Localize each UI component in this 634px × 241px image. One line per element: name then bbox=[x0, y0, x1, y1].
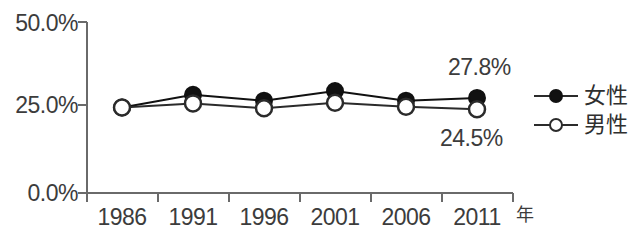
series-female bbox=[114, 83, 485, 115]
x-tick-label-2006: 2006 bbox=[381, 206, 430, 229]
series-line bbox=[122, 103, 477, 109]
series-layer bbox=[114, 83, 485, 117]
x-axis-unit-label: 年 bbox=[516, 206, 534, 224]
filled-circle-marker-icon bbox=[534, 86, 578, 106]
data-point-marker[interactable] bbox=[256, 100, 272, 116]
x-tick-label-2001: 2001 bbox=[310, 206, 359, 229]
open-circle-marker-icon bbox=[534, 115, 578, 135]
data-point-marker[interactable] bbox=[114, 100, 130, 116]
x-tick-label-1991: 1991 bbox=[168, 206, 217, 229]
data-label-female-2011: 27.8% bbox=[448, 56, 511, 79]
data-point-marker[interactable] bbox=[185, 95, 201, 111]
legend: 女性 男性 bbox=[534, 82, 628, 140]
data-label-male-2011: 24.5% bbox=[440, 127, 503, 150]
data-point-marker[interactable] bbox=[327, 95, 343, 111]
x-tick-label-1986: 1986 bbox=[97, 206, 146, 229]
legend-item-male[interactable]: 男性 bbox=[534, 111, 628, 138]
data-point-marker[interactable] bbox=[469, 101, 485, 117]
data-point-marker[interactable] bbox=[398, 99, 414, 115]
legend-item-female[interactable]: 女性 bbox=[534, 82, 628, 109]
y-axis-ticks bbox=[78, 22, 87, 193]
legend-label-female: 女性 bbox=[584, 85, 628, 107]
line-chart: 50.0% 25.0% 0.0% 1986 bbox=[0, 0, 634, 241]
x-axis-ticks bbox=[87, 193, 513, 202]
legend-label-male: 男性 bbox=[584, 114, 628, 136]
x-tick-label-1996: 1996 bbox=[239, 206, 288, 229]
x-tick-label-2011: 2011 bbox=[453, 206, 500, 229]
